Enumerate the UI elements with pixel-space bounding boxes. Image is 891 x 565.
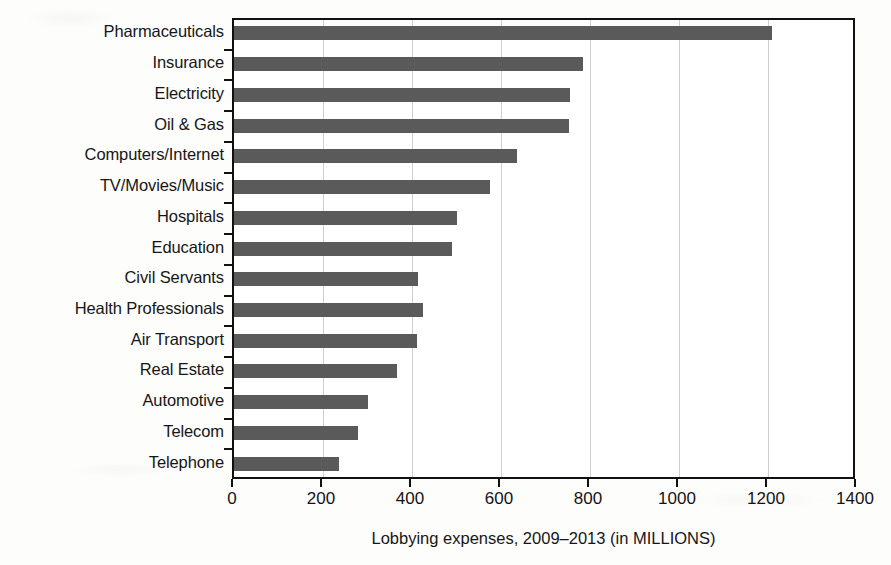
bar [234, 88, 570, 102]
y-tick-mark [224, 141, 232, 143]
y-axis-label: Hospitals [0, 208, 224, 224]
bar [234, 57, 583, 71]
y-axis-label: Computers/Internet [0, 146, 224, 162]
y-axis-label: Pharmaceuticals [0, 23, 224, 39]
x-tick-label: 800 [574, 489, 602, 509]
x-tick-label: 400 [396, 489, 424, 509]
y-tick-mark [224, 325, 232, 327]
bar [234, 149, 517, 163]
y-tick-mark [224, 418, 232, 420]
y-tick-mark [224, 79, 232, 81]
x-tick-mark-0 [231, 479, 233, 487]
plot-area [232, 18, 855, 479]
x-tick-label: 200 [307, 489, 335, 509]
y-axis-label: Telephone [0, 454, 224, 470]
x-axis-tick-labels: 0200400600800100012001400 [232, 489, 855, 513]
bar [234, 242, 452, 256]
y-axis-label: Real Estate [0, 361, 224, 377]
y-tick-mark [224, 295, 232, 297]
y-tick-mark [224, 202, 232, 204]
x-tick-mark-1200 [765, 479, 767, 487]
bar [234, 426, 358, 440]
bar [234, 303, 423, 317]
y-axis-label: Civil Servants [0, 269, 224, 285]
y-tick-mark [224, 264, 232, 266]
x-axis-title: Lobbying expenses, 2009–2013 (in MILLION… [232, 528, 855, 548]
y-axis-label: Air Transport [0, 331, 224, 347]
bar [234, 211, 457, 225]
y-axis-label: Automotive [0, 392, 224, 408]
x-tick-label: 1000 [658, 489, 696, 509]
y-tick-mark [224, 49, 232, 51]
y-axis-label: Education [0, 239, 224, 255]
y-axis-label: Health Professionals [0, 300, 224, 316]
x-tick-mark-600 [498, 479, 500, 487]
x-tick-mark-1400 [854, 479, 856, 487]
x-tick-mark-400 [409, 479, 411, 487]
y-axis-label: TV/Movies/Music [0, 177, 224, 193]
bar [234, 364, 397, 378]
y-tick-mark [224, 356, 232, 358]
y-axis-label: Telecom [0, 423, 224, 439]
bar [234, 272, 418, 286]
x-tick-mark-200 [320, 479, 322, 487]
x-tick-label: 1200 [747, 489, 785, 509]
y-axis-label: Insurance [0, 54, 224, 70]
bar [234, 26, 772, 40]
bar [234, 457, 339, 471]
y-axis-label: Oil & Gas [0, 116, 224, 132]
bar [234, 395, 368, 409]
x-tick-label: 600 [485, 489, 513, 509]
y-tick-mark [224, 172, 232, 174]
bar [234, 119, 569, 133]
x-tick-label: 0 [227, 489, 236, 509]
bar-series [234, 20, 853, 477]
y-tick-mark [224, 110, 232, 112]
x-tick-label: 1400 [836, 489, 874, 509]
x-tick-mark-1000 [676, 479, 678, 487]
bar [234, 180, 490, 194]
y-tick-mark [224, 233, 232, 235]
lobbying-expenses-bar-chart: PharmaceuticalsInsuranceElectricityOil &… [0, 0, 891, 565]
y-axis-category-labels: PharmaceuticalsInsuranceElectricityOil &… [0, 18, 224, 479]
y-tick-mark [224, 448, 232, 450]
y-tick-mark [224, 387, 232, 389]
y-axis-label: Electricity [0, 85, 224, 101]
bar [234, 334, 417, 348]
x-tick-mark-800 [587, 479, 589, 487]
x-axis-tick-marks [232, 479, 855, 488]
